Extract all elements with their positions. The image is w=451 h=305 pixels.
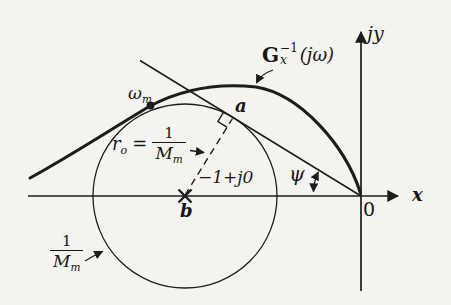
radius-symbol: ro xyxy=(112,135,127,153)
radius-fraction: 1 Mm xyxy=(152,126,185,162)
center-value-label: −1+j0 xyxy=(198,169,253,186)
curve-label-subscript: x xyxy=(280,54,287,66)
curve-label-arrow xyxy=(257,70,274,83)
curve-label: G −1 x (jω) xyxy=(262,45,334,69)
psi-angle-arc xyxy=(314,172,319,192)
radius-den-subscript: m xyxy=(173,153,183,165)
origin-label: 0 xyxy=(363,200,375,219)
radius-den-base: M xyxy=(155,143,172,163)
radius-formula-label: ro = 1 Mm xyxy=(112,126,186,162)
radius-base: r xyxy=(112,133,121,154)
center-point-label: b xyxy=(180,202,193,220)
right-angle-marker xyxy=(218,112,227,127)
x-axis-label: x xyxy=(412,186,423,204)
y-axis-label: jy xyxy=(367,24,384,43)
curve-label-scripts: −1 x xyxy=(280,42,298,66)
radius-fraction-numerator: 1 xyxy=(162,126,176,142)
radius-fraction-denominator: Mm xyxy=(152,142,185,162)
circle-fraction-denominator: Mm xyxy=(50,250,83,270)
radius-subscript: o xyxy=(121,144,128,157)
curve-label-base: G xyxy=(262,45,279,65)
equals-sign: = xyxy=(132,135,147,153)
circle-label-arrow xyxy=(85,252,103,262)
circle-den-base: M xyxy=(53,251,70,271)
omega-m-subscript: m xyxy=(142,93,152,105)
inverse-plot-curve xyxy=(30,86,361,193)
radius-label-arrow xyxy=(190,151,204,153)
omega-m-base: ω xyxy=(128,83,142,103)
figure-canvas: jy x 0 G −1 x (jω) ωm a b ψ −1+j0 ro = 1… xyxy=(0,0,451,305)
circle-radius-label: 1 Mm xyxy=(50,234,83,270)
curve-label-argument: (jω) xyxy=(300,46,334,64)
tangency-point-label: a xyxy=(235,97,247,115)
circle-fraction-numerator: 1 xyxy=(60,234,74,250)
omega-m-label: ωm xyxy=(128,85,152,102)
circle-den-subscript: m xyxy=(70,261,80,273)
psi-angle-label: ψ xyxy=(289,164,305,184)
